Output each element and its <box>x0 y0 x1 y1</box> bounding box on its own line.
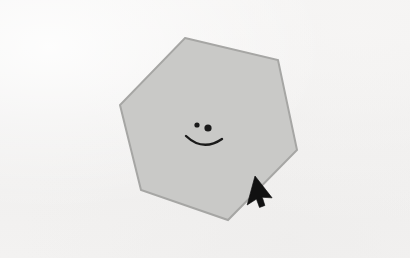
smiley-left-eye-icon <box>194 122 199 127</box>
smiley-right-eye-icon <box>204 124 211 131</box>
scene-canvas <box>0 0 410 258</box>
scene-vector-layer <box>0 0 410 258</box>
